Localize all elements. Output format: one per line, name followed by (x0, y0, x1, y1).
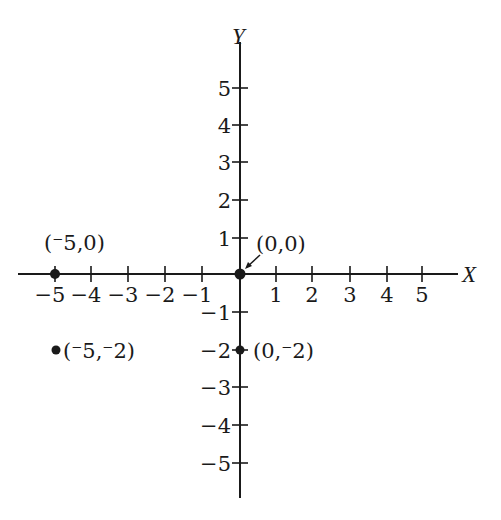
y-tick-label: 4 (218, 114, 231, 138)
x-tick-labels: −5 −4 −3 −2 −1 1 2 3 4 5 (35, 283, 429, 307)
y-tick-label: 5 (218, 77, 231, 101)
y-tick-label: 1 (218, 227, 231, 251)
x-tick-label: 5 (415, 283, 428, 307)
x-tick-label: 1 (269, 283, 282, 307)
point-0-neg2 (236, 346, 245, 355)
y-tick-label: −3 (200, 376, 231, 400)
y-axis-name: Y (232, 24, 247, 49)
point-label-origin: (0,0) (256, 232, 306, 256)
y-tick-label: −4 (200, 414, 231, 438)
x-tick-label: 2 (305, 283, 318, 307)
y-tick-label: 2 (218, 189, 231, 213)
x-tick-label: 4 (380, 283, 393, 307)
y-tick-label: −1 (200, 301, 231, 325)
coordinate-plane: X Y −5 −4 −3 −2 −1 1 2 3 4 5 (0, 0, 501, 520)
arrow-icon (245, 255, 260, 269)
x-tick-label: −4 (71, 283, 102, 307)
x-tick-label: −3 (108, 283, 139, 307)
y-tick-label: −5 (200, 452, 231, 476)
x-tick-label: −2 (145, 283, 176, 307)
point-label-neg5-0: (⁻5,0) (44, 231, 105, 255)
x-tick-label: 3 (343, 283, 356, 307)
x-tick-label: −5 (35, 283, 66, 307)
point-origin (235, 269, 246, 280)
point-label-0-neg2: (0,⁻2) (253, 339, 314, 363)
y-tick-label: 3 (218, 151, 231, 175)
x-axis-name: X (461, 262, 477, 287)
y-tick-labels: 5 4 3 2 1 −1 −2 −3 −4 −5 (200, 77, 231, 476)
point-neg5-neg2 (52, 346, 61, 355)
point-neg5-0 (50, 269, 60, 279)
point-label-neg5-neg2: (⁻5,⁻2) (63, 339, 135, 363)
y-tick-label: −2 (200, 339, 231, 363)
